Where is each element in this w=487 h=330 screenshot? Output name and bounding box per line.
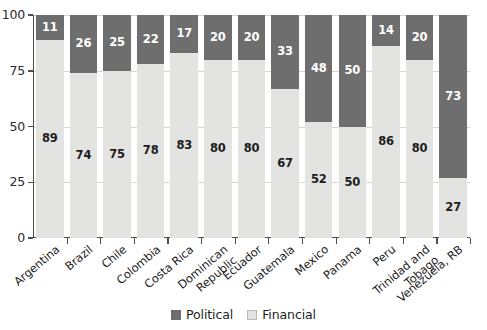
bar-slot: 2773 xyxy=(436,15,470,238)
bar-slot: 8317 xyxy=(167,15,201,238)
bar-segment-political[interactable]: 73 xyxy=(439,15,467,178)
bar-slot: 7426 xyxy=(67,15,101,238)
y-tick-label-50: 50 xyxy=(0,119,25,134)
bar-slot: 8020 xyxy=(201,15,235,238)
bar-segment-political[interactable]: 33 xyxy=(271,15,299,89)
bar-guatemala[interactable]: 6733 xyxy=(271,15,299,238)
bar-value-political: 50 xyxy=(345,65,361,77)
x-tick-mark xyxy=(134,238,135,244)
bar-panama[interactable]: 5050 xyxy=(339,15,367,238)
bar-chile[interactable]: 7525 xyxy=(103,15,131,238)
bar-peru[interactable]: 8614 xyxy=(372,15,400,238)
x-tick-mark xyxy=(336,238,337,244)
bar-segment-political[interactable]: 25 xyxy=(103,15,131,71)
x-tick-mark xyxy=(67,238,68,244)
bar-value-political: 48 xyxy=(311,63,327,75)
bar-venezuela-rb[interactable]: 2773 xyxy=(439,15,467,238)
legend-item-political[interactable]: Political xyxy=(171,307,233,322)
legend-swatch-financial-icon xyxy=(247,310,257,320)
x-tick-mark xyxy=(268,238,269,244)
bar-segment-financial[interactable]: 80 xyxy=(204,60,232,238)
bar-value-political: 22 xyxy=(143,34,159,46)
bar-dominican-republic[interactable]: 8020 xyxy=(204,15,232,238)
bar-value-financial: 83 xyxy=(176,140,192,152)
x-tick-mark xyxy=(235,238,236,244)
bar-value-political: 20 xyxy=(412,32,428,44)
chart-legend: PoliticalFinancial xyxy=(0,307,487,322)
bars-layer: 8911742675257822831780208020673352485050… xyxy=(33,15,470,238)
x-tick-mark xyxy=(470,238,471,244)
x-tick-mark xyxy=(302,238,303,244)
bar-trinidad-and-tobago[interactable]: 8020 xyxy=(406,15,434,238)
bar-segment-political[interactable]: 14 xyxy=(372,15,400,46)
bar-segment-financial[interactable]: 86 xyxy=(372,46,400,238)
bar-value-financial: 78 xyxy=(143,145,159,157)
bar-value-financial: 80 xyxy=(412,143,428,155)
bar-segment-political[interactable]: 17 xyxy=(170,15,198,53)
x-tick-mark xyxy=(403,238,404,244)
bar-segment-financial[interactable]: 74 xyxy=(70,73,98,238)
bar-value-financial: 50 xyxy=(345,177,361,189)
y-tick-label-0: 0 xyxy=(0,230,25,245)
bar-slot: 8614 xyxy=(369,15,403,238)
legend-label: Political xyxy=(186,307,233,322)
stacked-bar-chart: 0255075100 89117426752578228317802080206… xyxy=(0,0,487,330)
bar-segment-political[interactable]: 11 xyxy=(36,15,64,40)
bar-segment-political[interactable]: 22 xyxy=(137,15,165,64)
x-tick-mark xyxy=(167,238,168,244)
bar-slot: 8020 xyxy=(235,15,269,238)
bar-value-financial: 75 xyxy=(109,149,125,161)
bar-value-political: 20 xyxy=(210,32,226,44)
bar-value-political: 20 xyxy=(244,32,260,44)
bar-segment-financial[interactable]: 50 xyxy=(339,127,367,239)
bar-slot: 7525 xyxy=(100,15,134,238)
bar-segment-financial[interactable]: 80 xyxy=(406,60,434,238)
bar-segment-financial[interactable]: 89 xyxy=(36,40,64,238)
bar-slot: 8020 xyxy=(403,15,437,238)
bar-ecuador[interactable]: 8020 xyxy=(238,15,266,238)
y-tick-label-25: 25 xyxy=(0,174,25,189)
x-tick-mark xyxy=(201,238,202,244)
bar-slot: 8911 xyxy=(33,15,67,238)
legend-swatch-political-icon xyxy=(171,310,181,320)
bar-segment-financial[interactable]: 52 xyxy=(305,122,333,238)
bar-value-financial: 89 xyxy=(42,133,58,145)
bar-value-political: 17 xyxy=(176,28,192,40)
bar-segment-financial[interactable]: 78 xyxy=(137,64,165,238)
bar-value-financial: 74 xyxy=(76,150,92,162)
bar-slot: 7822 xyxy=(134,15,168,238)
bar-argentina[interactable]: 8911 xyxy=(36,15,64,238)
bar-value-financial: 27 xyxy=(445,202,461,214)
bar-slot: 5050 xyxy=(336,15,370,238)
x-tick-mark xyxy=(100,238,101,244)
bar-costa-rica[interactable]: 8317 xyxy=(170,15,198,238)
bar-segment-financial[interactable]: 67 xyxy=(271,89,299,238)
bar-value-financial: 80 xyxy=(210,143,226,155)
legend-label: Financial xyxy=(262,307,316,322)
bar-segment-political[interactable]: 20 xyxy=(406,15,434,60)
bar-value-political: 33 xyxy=(277,46,293,58)
bar-segment-political[interactable]: 26 xyxy=(70,15,98,73)
legend-item-financial[interactable]: Financial xyxy=(247,307,316,322)
bar-segment-financial[interactable]: 83 xyxy=(170,53,198,238)
bar-slot: 5248 xyxy=(302,15,336,238)
bar-brazil[interactable]: 7426 xyxy=(70,15,98,238)
bar-segment-political[interactable]: 20 xyxy=(204,15,232,60)
bar-value-political: 14 xyxy=(378,25,394,37)
bar-segment-financial[interactable]: 80 xyxy=(238,60,266,238)
bar-colombia[interactable]: 7822 xyxy=(137,15,165,238)
bar-value-political: 73 xyxy=(445,91,461,103)
bar-value-political: 11 xyxy=(42,22,58,34)
bar-segment-political[interactable]: 48 xyxy=(305,15,333,122)
bar-value-political: 25 xyxy=(109,37,125,49)
bar-segment-financial[interactable]: 75 xyxy=(103,71,131,238)
x-tick-mark xyxy=(369,238,370,244)
bar-segment-financial[interactable]: 27 xyxy=(439,178,467,238)
bar-segment-political[interactable]: 20 xyxy=(238,15,266,60)
bar-segment-political[interactable]: 50 xyxy=(339,15,367,127)
bar-mexico[interactable]: 5248 xyxy=(305,15,333,238)
y-tick-label-100: 100 xyxy=(0,7,25,22)
bar-value-financial: 86 xyxy=(378,136,394,148)
x-tick-mark xyxy=(436,238,437,244)
y-tick-label-75: 75 xyxy=(0,63,25,78)
